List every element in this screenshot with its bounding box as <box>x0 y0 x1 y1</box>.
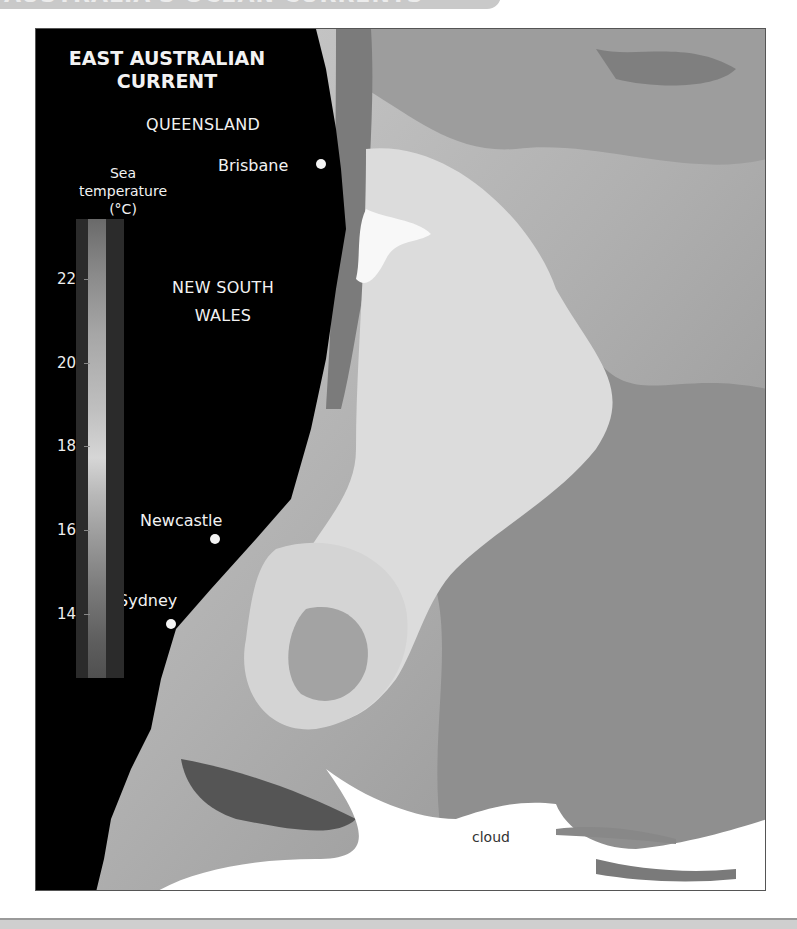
satellite-map: EAST AUSTRALIAN CURRENT QUEENSLAND Sea t… <box>35 28 766 891</box>
colorbar-tick-16: 16 <box>52 521 76 539</box>
colorbar-gradient <box>88 219 106 678</box>
legend-title-line1: Sea <box>78 164 168 182</box>
cloud-label: cloud <box>472 829 510 845</box>
city-label-brisbane: Brisbane <box>218 156 288 175</box>
region-label-nsw: NEW SOUTH WALES <box>158 274 288 330</box>
city-label-sydney: Sydney <box>118 591 177 610</box>
nsw-line1: NEW SOUTH <box>158 274 288 302</box>
legend-title: Sea temperature (°C) <box>78 164 168 218</box>
sea-surface-image <box>36 29 766 891</box>
region-label-queensland: QUEENSLAND <box>146 115 260 134</box>
colorbar-tick-14: 14 <box>52 605 76 623</box>
page-footer-band <box>0 918 797 929</box>
nsw-line2: WALES <box>158 302 288 330</box>
legend-title-line3: (°C) <box>78 200 168 218</box>
temperature-colorbar <box>76 219 124 678</box>
city-marker-sydney <box>166 619 176 629</box>
map-title: EAST AUSTRALIAN CURRENT <box>36 47 298 93</box>
colorbar-tick-20: 20 <box>52 354 76 372</box>
colorbar-tick-22: 22 <box>52 270 76 288</box>
legend-title-line2: temperature <box>78 182 168 200</box>
banner-title: AUSTRALIA'S OCEAN CURRENTS <box>4 0 424 7</box>
city-marker-newcastle <box>210 534 220 544</box>
page-banner: AUSTRALIA'S OCEAN CURRENTS <box>0 0 501 9</box>
map-title-line1: EAST AUSTRALIAN <box>36 47 298 70</box>
city-marker-brisbane <box>316 159 326 169</box>
map-title-line2: CURRENT <box>36 70 298 93</box>
city-label-newcastle: Newcastle <box>140 511 222 530</box>
colorbar-tick-18: 18 <box>52 437 76 455</box>
